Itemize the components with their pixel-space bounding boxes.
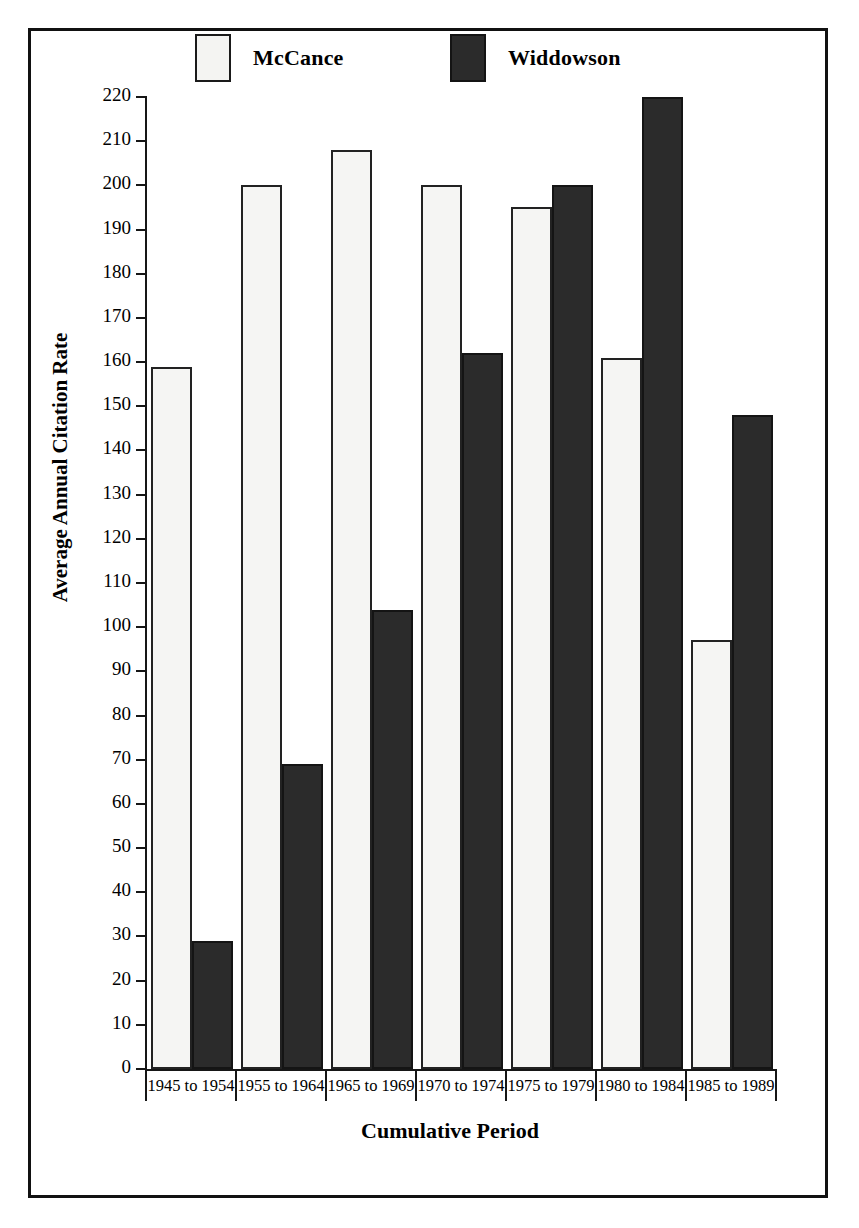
bar-group	[147, 97, 237, 1069]
y-axis-tick-mark	[136, 847, 147, 849]
bar-mccance-7[interactable]	[691, 640, 732, 1069]
x-axis-category-label: 1985 to 1989	[687, 1071, 777, 1101]
bar-widdowson-1[interactable]	[192, 941, 233, 1069]
bar-group	[597, 97, 687, 1069]
y-axis-tick-mark	[136, 582, 147, 584]
legend-item-mccance: McCance	[195, 34, 344, 82]
y-axis-tick-label: 190	[103, 217, 132, 239]
y-axis-tick-label: 110	[103, 570, 131, 592]
y-axis-tick-mark	[136, 96, 147, 98]
y-axis-tick-label: 50	[112, 835, 131, 857]
y-axis-tick-mark	[136, 803, 147, 805]
y-axis-tick-mark	[136, 715, 147, 717]
y-axis-tick-mark	[136, 626, 147, 628]
y-axis-tick-label: 60	[112, 791, 131, 813]
bar-mccance-6[interactable]	[601, 358, 642, 1069]
y-axis-tick-mark	[136, 759, 147, 761]
y-axis-tick-mark	[136, 935, 147, 937]
y-axis-tick-label: 130	[103, 482, 132, 504]
legend-swatch-icon-mccance	[195, 34, 231, 82]
bar-widdowson-5[interactable]	[552, 185, 593, 1069]
y-axis-tick-label: 140	[103, 437, 132, 459]
y-axis-tick-label: 30	[112, 923, 131, 945]
bar-mccance-1[interactable]	[151, 367, 192, 1069]
bar-group	[327, 97, 417, 1069]
y-axis-tick-label: 180	[103, 261, 132, 283]
bar-groups	[147, 97, 777, 1069]
y-axis-tick-mark	[136, 1068, 147, 1070]
bar-widdowson-7[interactable]	[732, 415, 773, 1069]
bar-widdowson-4[interactable]	[462, 353, 503, 1069]
y-axis-tick-mark	[136, 980, 147, 982]
bar-widdowson-3[interactable]	[372, 610, 413, 1069]
figure: McCance Widdowson Average Annual Citatio…	[0, 0, 859, 1228]
y-axis-tick-label: 0	[122, 1056, 132, 1078]
y-axis-tick-mark	[136, 229, 147, 231]
y-axis-tick-label: 40	[112, 879, 131, 901]
y-axis-tick-mark	[136, 361, 147, 363]
x-axis-category-label: 1980 to 1984	[597, 1071, 687, 1101]
y-axis-tick-label: 150	[103, 393, 132, 415]
x-axis-title: Cumulative Period	[100, 1118, 800, 1144]
y-axis-title: Average Annual Citation Rate	[48, 233, 73, 703]
y-axis-tick-mark	[136, 184, 147, 186]
x-axis-category-label: 1965 to 1969	[327, 1071, 417, 1101]
y-axis-tick-mark	[136, 538, 147, 540]
legend-swatch-icon-widdowson	[450, 34, 486, 82]
y-axis-tick-label: 120	[103, 526, 132, 548]
bar-widdowson-2[interactable]	[282, 764, 323, 1069]
legend-item-widdowson: Widdowson	[450, 34, 621, 82]
y-axis-tick-label: 20	[112, 968, 131, 990]
plot-area: 0102030405060708090100110120130140150160…	[147, 97, 777, 1069]
legend-label-mccance: McCance	[253, 45, 344, 71]
y-axis-tick-label: 100	[103, 614, 132, 636]
chart-legend: McCance Widdowson	[150, 26, 770, 86]
x-axis-category-labels: 1945 to 19541955 to 19641965 to 19691970…	[145, 1071, 777, 1101]
y-axis-tick-label: 90	[112, 658, 131, 680]
bar-group	[237, 97, 327, 1069]
y-axis-tick-label: 10	[112, 1012, 131, 1034]
y-axis-tick-mark	[136, 1024, 147, 1026]
y-axis-tick-label: 160	[103, 349, 132, 371]
y-axis-tick-mark	[136, 405, 147, 407]
y-axis-tick-mark	[136, 670, 147, 672]
bar-group	[507, 97, 597, 1069]
bar-mccance-5[interactable]	[511, 207, 552, 1069]
x-axis-category-label: 1970 to 1974	[417, 1071, 507, 1101]
bar-mccance-4[interactable]	[421, 185, 462, 1069]
y-axis-tick-mark	[136, 891, 147, 893]
x-axis-category-label: 1955 to 1964	[237, 1071, 327, 1101]
y-axis-tick-mark	[136, 494, 147, 496]
y-axis-tick-mark	[136, 140, 147, 142]
bar-mccance-3[interactable]	[331, 150, 372, 1069]
legend-label-widdowson: Widdowson	[508, 45, 621, 71]
bar-group	[687, 97, 777, 1069]
y-axis-tick-label: 70	[112, 747, 131, 769]
y-axis-tick-label: 80	[112, 703, 131, 725]
y-axis-tick-mark	[136, 273, 147, 275]
y-axis-tick-mark	[136, 449, 147, 451]
y-axis-tick-label: 170	[103, 305, 132, 327]
y-axis-tick-label: 200	[103, 172, 132, 194]
bar-group	[417, 97, 507, 1069]
y-axis-tick-mark	[136, 317, 147, 319]
y-axis-tick-label: 210	[103, 128, 132, 150]
x-axis-category-label: 1975 to 1979	[507, 1071, 597, 1101]
y-axis-tick-label: 220	[103, 84, 132, 106]
bar-widdowson-6[interactable]	[642, 97, 683, 1069]
x-axis-category-label: 1945 to 1954	[147, 1071, 237, 1101]
bar-mccance-2[interactable]	[241, 185, 282, 1069]
